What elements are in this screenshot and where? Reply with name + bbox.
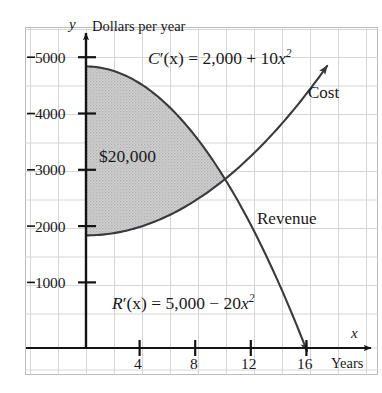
revenue-equation-body: ′(x) = 5,000 − 20 — [123, 293, 241, 313]
revenue-equation-exponent: 2 — [249, 292, 255, 304]
revenue-equation-var: x — [241, 293, 249, 313]
figure-frame — [26, 28, 378, 375]
y-tick-label-2000: 2000 — [35, 219, 65, 235]
x-axis-symbol: x — [351, 326, 358, 341]
x-tick-label-12: 12 — [241, 356, 257, 372]
revenue-curve-label: Revenue — [257, 210, 316, 227]
x-tick-label-16: 16 — [297, 356, 313, 372]
y-tick-label-1000: 1000 — [35, 275, 65, 291]
y-axis-title: Dollars per year — [92, 19, 185, 34]
y-tick-label-3000: 3000 — [35, 162, 65, 178]
cost-equation-exponent: 2 — [286, 47, 292, 59]
x-axis-title: Years — [331, 356, 363, 371]
grid-lines — [26, 28, 378, 375]
y-tick-label-4000: 4000 — [35, 106, 65, 122]
shaded-area-label: $20,000 — [99, 148, 156, 166]
cost-curve-label: Cost — [308, 84, 339, 101]
x-tick-label-8: 8 — [190, 356, 198, 372]
cost-equation-annotation: C′(x) = 2,000 + 10x2 — [148, 48, 292, 67]
cost-equation-lead: C — [148, 48, 160, 68]
chart-figure: 5000 4000 3000 2000 1000 4 8 12 16 y Dol… — [0, 0, 382, 393]
cost-equation-body: ′(x) = 2,000 + 10 — [160, 48, 278, 68]
cost-equation-var: x — [278, 48, 286, 68]
revenue-equation-annotation: R′(x) = 5,000 − 20x2 — [112, 293, 255, 312]
x-tick-label-4: 4 — [134, 356, 142, 372]
revenue-equation-lead: R — [112, 293, 123, 313]
y-axis-symbol: y — [69, 17, 76, 32]
y-tick-label-5000: 5000 — [35, 50, 65, 66]
